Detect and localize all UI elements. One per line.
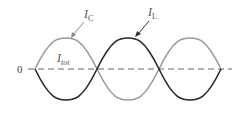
il-arrow: [138, 21, 149, 34]
ic-label: IC: [83, 7, 93, 23]
zero-label: 0: [17, 63, 23, 75]
phase-diagram: 0 IC IL Itot: [0, 0, 242, 116]
il-label: IL: [147, 5, 157, 21]
ic-arrow: [73, 22, 84, 35]
itot-label: Itot: [56, 51, 70, 67]
